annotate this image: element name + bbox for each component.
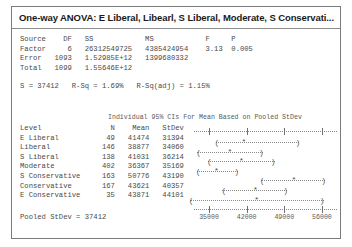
- axis-tick-label: 35000: [199, 214, 219, 221]
- ci-mean-marker: *: [291, 175, 296, 185]
- ci-upper-cap: ): [296, 138, 301, 148]
- axis-rule: [194, 131, 337, 132]
- ci-lower-cap: (: [221, 186, 226, 196]
- ci-lower-cap: (: [215, 138, 220, 148]
- ci-bar: ()*: [261, 176, 326, 186]
- confidence-interval-plot: ()*()*()*()*()*()*()* 350004200049000560…: [194, 124, 337, 224]
- anova-session-window: One-way ANOVA: E Liberal, Libearl, S Lib…: [11, 6, 341, 239]
- ci-bar: ()*: [197, 167, 238, 177]
- ci-upper-cap: ): [259, 148, 264, 158]
- axis-tick-labels: 35000420004900056000: [194, 214, 337, 224]
- ci-mean-marker: *: [253, 185, 258, 195]
- ci-upper-cap: ): [320, 196, 325, 206]
- ci-lower-cap: (: [196, 148, 201, 158]
- ci-bar: ()*: [190, 196, 324, 206]
- ci-mean-marker: *: [214, 166, 219, 176]
- ci-plot-caption: Individual 95% CIs For Mean Based on Poo…: [108, 114, 302, 121]
- page-title: One-way ANOVA: E Liberal, Libearl, S Lib…: [12, 12, 334, 23]
- ci-upper-cap: ): [321, 176, 326, 186]
- ci-lower-cap: (: [189, 196, 194, 206]
- model-summary-line: S = 37412 R-Sq = 1.69% R-Sq(adj) = 1.15%: [20, 82, 210, 92]
- axis-rule: [194, 209, 337, 210]
- ci-mean-marker: *: [254, 195, 259, 205]
- ci-axis-top: [194, 128, 337, 135]
- axis-tick: [209, 206, 210, 213]
- axis-tick: [247, 206, 248, 213]
- ci-span-line: [216, 142, 300, 143]
- axis-tick-label: 42000: [237, 214, 257, 221]
- ci-mean-marker: *: [239, 156, 244, 166]
- ci-upper-cap: ): [234, 167, 239, 177]
- ci-lower-cap: (: [260, 176, 265, 186]
- ci-upper-cap: ): [283, 186, 288, 196]
- axis-tick-label: 56000: [312, 214, 332, 221]
- ci-mean-marker: *: [241, 137, 246, 147]
- ci-upper-cap: ): [271, 157, 276, 167]
- ci-lower-cap: (: [207, 157, 212, 167]
- axis-tick: [209, 128, 210, 135]
- ci-axis-bottom: [194, 206, 337, 213]
- ci-lower-cap: (: [196, 167, 201, 177]
- axis-tick: [322, 128, 323, 135]
- anova-table: Source DF SS MS F P Factor 6 26312549725…: [20, 35, 253, 73]
- window-title-bar: One-way ANOVA: E Liberal, Libearl, S Lib…: [12, 7, 340, 29]
- ci-mean-marker: *: [227, 147, 232, 157]
- ci-bar: ()*: [197, 148, 263, 158]
- axis-tick-label: 49000: [274, 214, 294, 221]
- session-output-screen: One-way ANOVA: E Liberal, Libearl, S Lib…: [0, 0, 352, 247]
- levels-statistics-table: Level N Mean StDev E Liberal 49 41474 31…: [20, 124, 184, 201]
- axis-tick: [322, 206, 323, 213]
- axis-tick: [247, 128, 248, 135]
- pooled-stdev-line: Pooled StDev = 37412: [20, 213, 106, 223]
- axis-tick: [284, 206, 285, 213]
- axis-tick: [284, 128, 285, 135]
- session-body: Source DF SS MS F P Factor 6 26312549725…: [12, 29, 340, 239]
